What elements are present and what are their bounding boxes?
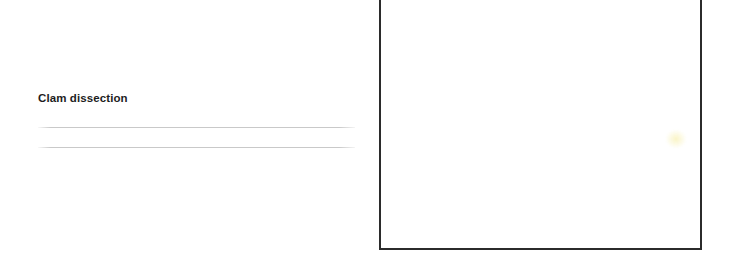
image-frame bbox=[379, 0, 702, 250]
scan-smudge bbox=[666, 130, 686, 148]
document-page: Clam dissection bbox=[0, 0, 730, 268]
text-column: Clam dissection bbox=[0, 0, 370, 268]
writing-rule-2 bbox=[38, 147, 355, 148]
writing-rule-1 bbox=[38, 127, 355, 128]
image-column bbox=[370, 0, 730, 268]
page-title: Clam dissection bbox=[38, 91, 128, 105]
